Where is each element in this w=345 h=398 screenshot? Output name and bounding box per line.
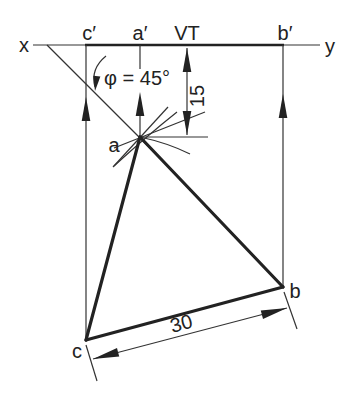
- base-dimension-label: 30: [168, 310, 195, 337]
- arrowhead-up-icon: [82, 97, 91, 121]
- a-prime-label: a′: [133, 22, 148, 44]
- arrowhead-down-icon: [183, 111, 192, 135]
- point-a-label: a: [108, 134, 120, 156]
- triangle-abc: [86, 137, 283, 340]
- b-prime-label: b′: [278, 22, 293, 44]
- projection-drawing-canvas: φ = 45° 15 30 x y c′ a′ VT b′ a b c: [0, 0, 345, 398]
- x-axis-label: x: [19, 34, 29, 56]
- arrowhead-up-icon: [183, 48, 192, 72]
- c-prime-label: c′: [82, 22, 96, 44]
- angle-dimension: φ = 45°: [91, 56, 170, 91]
- depth-dimension-label: 15: [186, 85, 208, 107]
- arrowhead-up-icon: [279, 94, 288, 118]
- vt-label: VT: [174, 22, 200, 44]
- point-b-label: b: [289, 280, 300, 302]
- arrowhead-angle-icon: [91, 76, 100, 92]
- arrowhead-left-icon: [92, 348, 119, 363]
- point-c-label: c: [72, 340, 82, 362]
- angle-value-label: φ = 45°: [104, 67, 170, 89]
- arrowhead-right-icon: [261, 304, 288, 319]
- y-axis-label: y: [325, 35, 335, 57]
- diagonal-trace-line: [47, 45, 152, 150]
- arrowhead-up-icon: [136, 92, 145, 116]
- dimension-30: 30: [86, 292, 297, 381]
- dimension-15: 15: [183, 48, 208, 135]
- projection-drawing: φ = 45° 15 30 x y c′ a′ VT b′ a b c: [0, 0, 345, 398]
